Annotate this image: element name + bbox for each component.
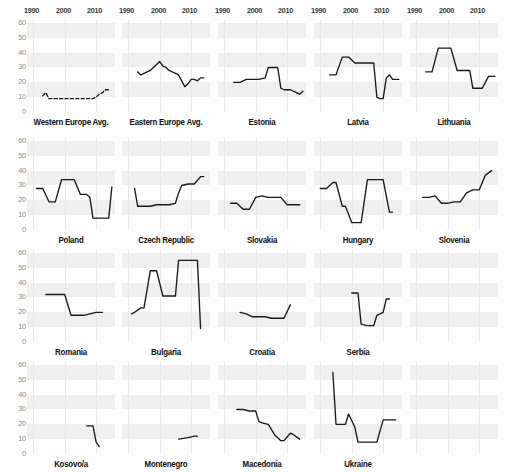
panel-western-europe-avg: 199020002010Western Europe Avg. bbox=[27, 20, 115, 134]
panel-montenegro: Montenegro bbox=[122, 362, 210, 472]
y-tick-label: 20 bbox=[5, 308, 26, 316]
panel-kosovo-a: Kosovo/a bbox=[27, 362, 115, 472]
sparkline bbox=[27, 20, 115, 112]
x-tick-label: 1990 bbox=[119, 7, 134, 15]
sparkline bbox=[314, 138, 402, 230]
panel-title: Lithuania bbox=[413, 118, 495, 127]
panel-hungary: Hungary bbox=[314, 138, 402, 252]
panel-title: Eastern Europe Avg. bbox=[125, 118, 207, 127]
panel-ukraine: Ukraine bbox=[314, 362, 402, 472]
x-tick-label: 2010 bbox=[374, 7, 389, 15]
y-tick-label: 20 bbox=[5, 420, 26, 428]
y-axis-row-1: 0102030405060 bbox=[0, 20, 26, 112]
panel-lithuania: 199020002010Lithuania bbox=[410, 20, 498, 134]
series-line bbox=[179, 436, 198, 439]
panel-poland: Poland bbox=[27, 138, 115, 252]
x-tick-label: 2010 bbox=[470, 7, 485, 15]
x-tick-label: 1990 bbox=[311, 7, 326, 15]
y-tick-label: 10 bbox=[5, 323, 26, 331]
series-line bbox=[240, 305, 290, 318]
y-tick-label: 40 bbox=[5, 391, 26, 399]
series-line bbox=[333, 372, 396, 442]
x-gridline bbox=[416, 250, 417, 342]
plot-area bbox=[122, 362, 210, 454]
panel-latvia: 199020002010Latvia bbox=[314, 20, 402, 134]
y-tick-label: 60 bbox=[5, 249, 26, 257]
panel-title: Poland bbox=[30, 236, 112, 245]
y-tick-label: 50 bbox=[5, 376, 26, 384]
y-tick-label: 30 bbox=[5, 181, 26, 189]
background-band bbox=[410, 424, 498, 439]
sparkline bbox=[218, 138, 306, 230]
panel-title: Serbia bbox=[317, 348, 399, 357]
y-tick-label: 0 bbox=[5, 450, 26, 458]
sparkline bbox=[122, 20, 210, 112]
y-tick-label: 60 bbox=[5, 137, 26, 145]
plot-area bbox=[314, 250, 402, 342]
y-axis-row-2: 0102030405060 bbox=[0, 138, 26, 230]
y-axis-row-4: 0102030405060 bbox=[0, 362, 26, 454]
panel-title: Slovenia bbox=[413, 236, 495, 245]
panel-macedonia: Macedonia bbox=[218, 362, 306, 472]
x-tick-label: 1990 bbox=[24, 7, 39, 15]
y-tick-label: 10 bbox=[5, 435, 26, 443]
x-tick-label: 2000 bbox=[247, 7, 262, 15]
panel-estonia: 199020002010Estonia bbox=[218, 20, 306, 134]
sparkline bbox=[122, 138, 210, 230]
x-tick-label: 2000 bbox=[151, 7, 166, 15]
background-band bbox=[410, 365, 498, 380]
sparkline bbox=[27, 138, 115, 230]
plot-area bbox=[27, 20, 115, 112]
panel-czech-republic: Czech Republic bbox=[122, 138, 210, 252]
background-band bbox=[410, 312, 498, 327]
sparkline bbox=[27, 362, 115, 454]
y-tick-label: 40 bbox=[5, 279, 26, 287]
x-gridline bbox=[479, 362, 480, 454]
x-gridline bbox=[479, 250, 480, 342]
panel-bulgaria: Bulgaria bbox=[122, 250, 210, 364]
series-line bbox=[237, 409, 300, 440]
background-band bbox=[410, 395, 498, 410]
series-line bbox=[87, 426, 100, 447]
y-tick-label: 20 bbox=[5, 78, 26, 86]
panel-serbia: Serbia bbox=[314, 250, 402, 364]
plot-area bbox=[218, 138, 306, 230]
panel-title: Bulgaria bbox=[125, 348, 207, 357]
background-band bbox=[410, 253, 498, 268]
y-tick-label: 0 bbox=[5, 108, 26, 116]
y-tick-label: 40 bbox=[5, 49, 26, 57]
plot-area bbox=[314, 362, 402, 454]
plot-area bbox=[218, 250, 306, 342]
x-tick-label: 1990 bbox=[407, 7, 422, 15]
sparkline bbox=[410, 138, 498, 230]
panel-title: Latvia bbox=[317, 118, 399, 127]
y-tick-label: 30 bbox=[5, 293, 26, 301]
panel-title: Hungary bbox=[317, 236, 399, 245]
sparkline bbox=[410, 20, 498, 112]
small-multiples-figure: 0102030405060010203040506001020304050600… bbox=[0, 0, 506, 472]
series-line bbox=[426, 48, 495, 88]
y-tick-label: 30 bbox=[5, 405, 26, 413]
x-tick-label: 2000 bbox=[439, 7, 454, 15]
series-line bbox=[320, 180, 392, 223]
plot-area bbox=[314, 20, 402, 112]
series-line bbox=[36, 180, 111, 219]
y-tick-label: 50 bbox=[5, 152, 26, 160]
panel-title: Western Europe Avg. bbox=[30, 118, 112, 127]
plot-area bbox=[410, 362, 498, 454]
sparkline bbox=[27, 250, 115, 342]
series-line bbox=[138, 62, 204, 87]
figure-caption bbox=[12, 464, 492, 472]
panel-title: Romania bbox=[30, 348, 112, 357]
plot-area bbox=[122, 138, 210, 230]
series-line bbox=[352, 293, 390, 326]
panel-slovenia: Slovenia bbox=[410, 138, 498, 252]
sparkline bbox=[314, 250, 402, 342]
sparkline bbox=[122, 362, 210, 454]
y-tick-label: 30 bbox=[5, 63, 26, 71]
panel-empty bbox=[410, 250, 498, 364]
plot-area bbox=[218, 362, 306, 454]
series-line bbox=[330, 57, 399, 99]
x-tick-label: 2000 bbox=[56, 7, 71, 15]
panel-title: Croatia bbox=[221, 348, 303, 357]
